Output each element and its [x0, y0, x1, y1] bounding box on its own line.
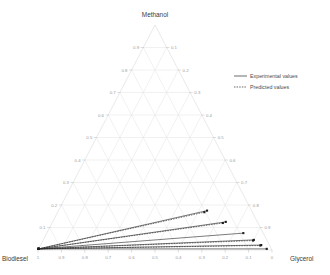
- tick-label-bottom-0: 0: [271, 255, 274, 260]
- tick-label-left-0.2: 0.2: [51, 203, 58, 208]
- axis-tick-labels: 0.10.20.30.40.50.60.70.80.90.10.20.30.40…: [37, 45, 274, 260]
- tie-line-tie-3: [39, 233, 244, 249]
- tick-label-right-0.8: 0.8: [253, 203, 260, 208]
- chart-legend: Experimental valuesPredicted values: [234, 73, 298, 90]
- grid-layer: [50, 48, 261, 251]
- data-point-tie-6-start: [38, 248, 40, 250]
- tick-label-left-0.4: 0.4: [75, 158, 82, 163]
- tick-label-right-0.3: 0.3: [194, 90, 201, 95]
- axis-ticks-layer: [38, 48, 272, 253]
- legend-label-0: Experimental values: [250, 73, 298, 79]
- vertex-label-methanol: Methanol: [142, 11, 168, 18]
- tick-label-left-0.1: 0.1: [40, 225, 47, 230]
- vertex-label-biodiesel: Biodiesel: [2, 255, 28, 262]
- tick-label-bottom-0.3: 0.3: [199, 255, 206, 260]
- tick-label-left-0.3: 0.3: [63, 180, 70, 185]
- vertex-label-glycerol: Glycerol: [290, 255, 313, 263]
- data-point-tie-1-end: [206, 210, 208, 212]
- data-point-tie-1p-end: [203, 211, 205, 213]
- data-point-tie-3-end: [242, 232, 244, 234]
- data-point-tie-5p-end: [259, 244, 261, 246]
- ternary-plot-svg: 0.10.20.30.40.50.60.70.80.90.10.20.30.40…: [0, 0, 330, 275]
- data-point-tie-6-end: [266, 248, 268, 250]
- tick-label-left-0.6: 0.6: [98, 113, 105, 118]
- tick-label-bottom-0.7: 0.7: [105, 255, 112, 260]
- tick-label-right-0.9: 0.9: [265, 225, 272, 230]
- tick-label-right-0.5: 0.5: [218, 135, 225, 140]
- data-point-tie-2p-end: [222, 222, 224, 224]
- tick-label-left-0.9: 0.9: [133, 45, 140, 50]
- tick-label-bottom-0.5: 0.5: [152, 255, 159, 260]
- tick-label-right-0.6: 0.6: [229, 158, 236, 163]
- tick-label-left-0.8: 0.8: [121, 68, 128, 73]
- legend-label-1: Predicted values: [250, 84, 290, 90]
- tick-label-bottom-0.1: 0.1: [246, 255, 253, 260]
- tie-lines-layer: [39, 211, 267, 249]
- tick-label-left-0.5: 0.5: [86, 135, 93, 140]
- tick-label-bottom-0.4: 0.4: [175, 255, 182, 260]
- data-point-tie-4p-end: [252, 240, 254, 242]
- data-point-tie-2-end: [225, 221, 227, 223]
- tick-label-bottom-0.2: 0.2: [222, 255, 229, 260]
- tick-label-right-0.2: 0.2: [183, 68, 190, 73]
- tick-label-right-0.1: 0.1: [171, 45, 178, 50]
- tick-label-bottom-0.8: 0.8: [82, 255, 89, 260]
- tick-label-left-0.7: 0.7: [110, 90, 117, 95]
- tie-line-tie-5: [39, 245, 262, 249]
- tick-label-right-0.7: 0.7: [241, 180, 248, 185]
- tick-label-right-0.4: 0.4: [206, 113, 213, 118]
- ternary-diagram-figure: 0.10.20.30.40.50.60.70.80.90.10.20.30.40…: [0, 0, 330, 275]
- tick-label-bottom-0.9: 0.9: [58, 255, 65, 260]
- tick-label-bottom-1: 1: [37, 255, 40, 260]
- tick-label-bottom-0.6: 0.6: [129, 255, 136, 260]
